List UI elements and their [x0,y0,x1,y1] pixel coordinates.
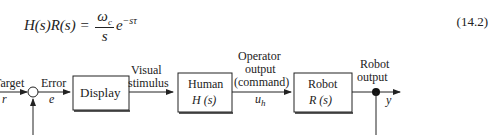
display-label: Display [80,85,121,100]
operator-label: Operator [238,49,281,63]
target-label: Target [0,76,25,90]
command-label: (command) [234,75,289,89]
error-label: Error [41,76,66,90]
e-label: e [49,92,55,106]
visual-label: Visual [131,63,162,77]
block-diagram: Target r Error e Display Visual stimulus… [0,0,496,135]
robot-tf-label: R (s) [308,93,332,107]
robot-output-label-2: output [357,70,388,84]
robot-output-label: Robot [360,57,390,71]
uh-label: uh [255,92,266,108]
stimulus-label: stimulus [128,76,169,90]
output-label: output [245,62,276,76]
robot-label: Robot [308,77,338,91]
summing-junction [28,87,38,97]
r-label: r [2,92,7,106]
y-label: y [385,93,392,107]
human-tf-label: H (s) [191,93,216,107]
human-label: Human [188,77,223,91]
